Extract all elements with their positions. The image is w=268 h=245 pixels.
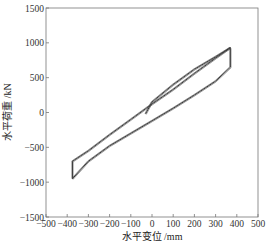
y-tick-label: 1500: [25, 4, 44, 14]
x-tick-label: 300: [208, 219, 223, 229]
x-tick-label: −200: [100, 219, 120, 229]
plot-frame: [46, 8, 258, 217]
y-tick-label: 1000: [25, 38, 44, 48]
hysteresis-curves: [72, 47, 231, 179]
x-tick-label: 0: [150, 219, 155, 229]
x-tick-label: 100: [166, 219, 181, 229]
x-axis-label: 水平变位 /mm: [122, 230, 183, 242]
y-tick-label: 500: [30, 73, 45, 83]
x-tick-label: 500: [251, 219, 266, 229]
x-tick-label: −300: [79, 219, 99, 229]
x-tick-label: 200: [187, 219, 202, 229]
y-tick-label: 0: [39, 108, 44, 118]
y-tick-label: −1500: [20, 213, 45, 223]
y-axis-ticks: 150010005000−500−1000−1500: [20, 4, 49, 223]
x-tick-label: −100: [121, 219, 141, 229]
y-tick-label: −1000: [20, 178, 45, 188]
x-tick-label: 400: [230, 219, 245, 229]
x-axis-ticks: −500−400−300−200−1000100200300400500: [36, 214, 265, 229]
hysteresis-chart: −500−400−300−200−1000100200300400500 150…: [0, 0, 268, 245]
x-tick-label: −400: [57, 219, 77, 229]
y-axis-label: 水平荷重 /kN: [1, 83, 13, 141]
y-tick-label: −500: [24, 143, 44, 153]
